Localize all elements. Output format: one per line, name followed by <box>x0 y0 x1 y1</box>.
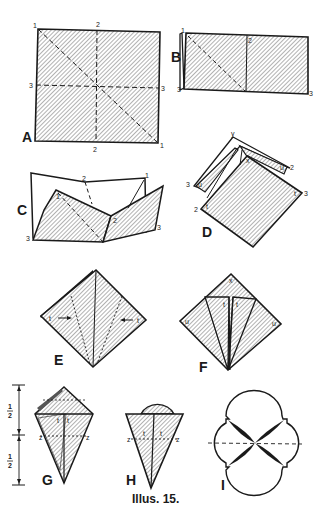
point-label: t <box>223 301 225 308</box>
step-e: t t E <box>40 270 146 368</box>
point-label: 3 <box>157 224 161 231</box>
origami-diagram: 1 2 3 3 2 1 A 1 2 3 3 B 2 1 1 2 3 3 C <box>0 0 333 507</box>
point-label: t <box>143 430 145 437</box>
step-label: H <box>126 472 136 488</box>
point-label: t <box>67 417 69 424</box>
point-label: u <box>198 181 202 188</box>
point-label: t <box>160 430 162 437</box>
point-label: z <box>127 436 131 443</box>
dimension-label-upper: 1 <box>8 403 12 410</box>
point-label: 3 <box>304 190 308 197</box>
step-label: D <box>202 224 212 240</box>
step-label: E <box>54 352 63 368</box>
step-i: I <box>208 391 302 496</box>
semicircle-top <box>141 404 174 414</box>
point-label: 3 <box>177 86 181 93</box>
point-label: u <box>272 320 276 327</box>
step-d: y 3 u x u 2 2 t t 3 D <box>186 130 308 247</box>
arrow-down-icon <box>17 429 21 434</box>
step-label: B <box>171 49 181 65</box>
step-b: 1 2 3 3 B <box>171 27 313 97</box>
step-label: G <box>42 472 53 488</box>
point-label: 3 <box>161 85 165 92</box>
svg-text:2: 2 <box>8 412 12 419</box>
point-label: y <box>231 130 235 138</box>
step-label: C <box>17 202 27 218</box>
point-label: 3 <box>186 181 190 188</box>
point-label: z <box>39 434 43 441</box>
point-label: z <box>176 436 180 443</box>
point-label: 2 <box>96 21 100 28</box>
point-label: 2 <box>248 37 252 44</box>
step-label: A <box>22 129 32 145</box>
point-label: 3 <box>309 90 313 97</box>
point-label: 1 <box>56 193 60 200</box>
point-label: u <box>280 164 284 171</box>
point-label: x <box>246 157 250 164</box>
point-label: 3 <box>26 235 30 242</box>
step-h: z z t t H <box>126 404 183 488</box>
dimension-label-lower: 1 <box>8 453 12 460</box>
point-label: x <box>229 277 233 284</box>
arrow-up-icon <box>17 436 21 441</box>
point-label: 2 <box>93 146 97 153</box>
point-label: u <box>185 318 189 325</box>
point-label: t <box>294 190 296 197</box>
point-label: 1 <box>33 22 37 29</box>
figure-caption: Illus. 15. <box>132 492 179 506</box>
quatrefoil-outline <box>214 391 298 496</box>
point-label: t <box>49 315 51 322</box>
point-label: t <box>137 317 139 324</box>
step-g: 1 2 1 2 t t z z G <box>6 385 93 488</box>
point-label: 1 <box>145 172 149 179</box>
step-c: 2 1 1 2 3 3 C <box>17 172 163 242</box>
step-a: 1 2 3 3 2 1 A <box>22 21 165 153</box>
point-label: 2 <box>194 206 198 213</box>
svg-text:2: 2 <box>8 462 12 469</box>
point-label: 2 <box>113 217 117 224</box>
point-label: t <box>57 417 59 424</box>
point-label: 2 <box>290 164 294 171</box>
point-label: 3 <box>29 82 33 89</box>
point-label: 1 <box>160 142 164 149</box>
arrow-down-icon <box>17 479 21 484</box>
step-label: F <box>199 359 208 375</box>
point-label: t <box>236 301 238 308</box>
point-label: t <box>206 203 208 210</box>
step-f: x u u t t F <box>180 274 281 375</box>
point-label: z <box>86 434 90 441</box>
step-label: I <box>221 477 225 493</box>
arrow-up-icon <box>17 386 21 391</box>
point-label: 2 <box>82 175 86 182</box>
point-label: 1 <box>181 27 185 34</box>
